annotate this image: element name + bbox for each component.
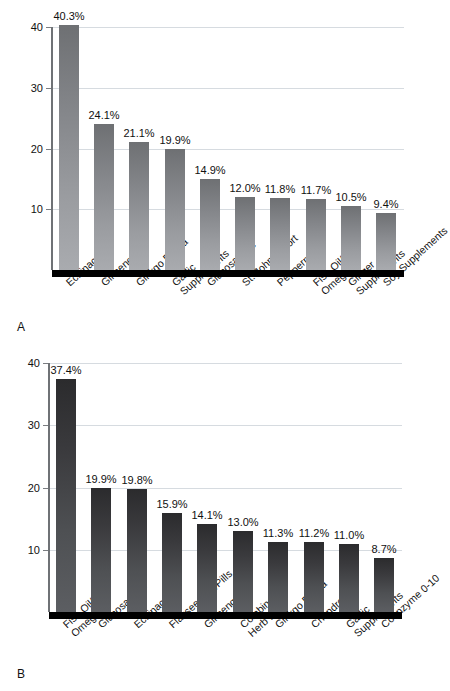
- bar-chart-b: 1020304037.4%Fish Oil/ Omega 319.9%Gluco…: [0, 345, 412, 691]
- bar: [94, 124, 114, 270]
- gridline: [50, 363, 402, 364]
- bar: [270, 198, 290, 270]
- bar-value-label: 15.9%: [148, 499, 196, 510]
- y-tick-mark: [43, 363, 48, 364]
- panel-b-figure: 1020304037.4%Fish Oil/ Omega 319.9%Gluco…: [0, 345, 412, 691]
- y-tick-mark: [46, 149, 51, 150]
- y-tick-label: 10: [8, 545, 40, 556]
- bar: [59, 25, 79, 270]
- bar-value-label: 9.4%: [362, 199, 410, 210]
- y-tick-mark: [46, 88, 51, 89]
- bar: [165, 149, 185, 270]
- gridline: [50, 425, 402, 426]
- bar: [235, 197, 255, 270]
- bar-value-label: 8.7%: [360, 544, 408, 555]
- y-tick-mark: [43, 550, 48, 551]
- y-tick-mark: [46, 209, 51, 210]
- bar: [91, 488, 111, 612]
- bar-chart-a: 1020304040.3%Echinacea24.1%Ginseng21.1%G…: [0, 0, 412, 345]
- y-tick-label: 30: [8, 420, 40, 431]
- bar: [304, 542, 324, 612]
- y-tick-label: 40: [11, 22, 43, 33]
- bar: [127, 489, 147, 612]
- bar-value-label: 14.9%: [186, 165, 234, 176]
- panel-letter-a: A: [17, 320, 26, 334]
- bar-value-label: 24.1%: [80, 110, 128, 121]
- bar-value-label: 11.0%: [325, 530, 373, 541]
- y-tick-mark: [46, 27, 51, 28]
- y-tick-label: 40: [8, 358, 40, 369]
- gridline: [53, 27, 404, 28]
- y-tick-label: 20: [8, 483, 40, 494]
- bar-value-label: 19.8%: [113, 475, 161, 486]
- x-axis-baseline: [52, 270, 404, 277]
- bar-value-label: 19.9%: [151, 135, 199, 146]
- bar: [200, 179, 220, 270]
- panel-letter-b: B: [17, 667, 26, 681]
- bar-value-label: 40.3%: [45, 11, 93, 22]
- bar: [376, 213, 396, 270]
- y-tick-mark: [43, 488, 48, 489]
- bar: [341, 206, 361, 270]
- x-axis-baseline: [49, 612, 402, 619]
- y-tick-label: 30: [11, 83, 43, 94]
- bar: [162, 513, 182, 612]
- gridline: [53, 88, 404, 89]
- bar: [268, 542, 288, 612]
- bar: [129, 142, 149, 270]
- bar: [197, 524, 217, 612]
- bar: [56, 379, 76, 612]
- y-tick-label: 10: [11, 204, 43, 215]
- bar-value-label: 13.0%: [219, 517, 267, 528]
- bar-value-label: 37.4%: [42, 365, 90, 376]
- bar: [306, 199, 326, 270]
- bar: [233, 531, 253, 612]
- bar: [339, 544, 359, 612]
- panel-a-figure: 1020304040.3%Echinacea24.1%Ginseng21.1%G…: [0, 0, 412, 345]
- y-tick-mark: [43, 425, 48, 426]
- bar: [374, 558, 394, 612]
- y-tick-label: 20: [11, 144, 43, 155]
